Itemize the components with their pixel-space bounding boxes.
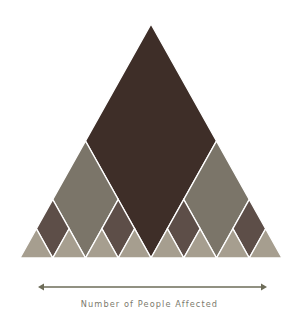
pyramid-diagram: [0, 0, 299, 323]
arrowhead-right-icon: [261, 284, 267, 291]
axis-label: Number of People Affected: [0, 299, 299, 309]
arrowhead-left-icon: [38, 284, 44, 291]
axis-arrow: [38, 284, 267, 291]
